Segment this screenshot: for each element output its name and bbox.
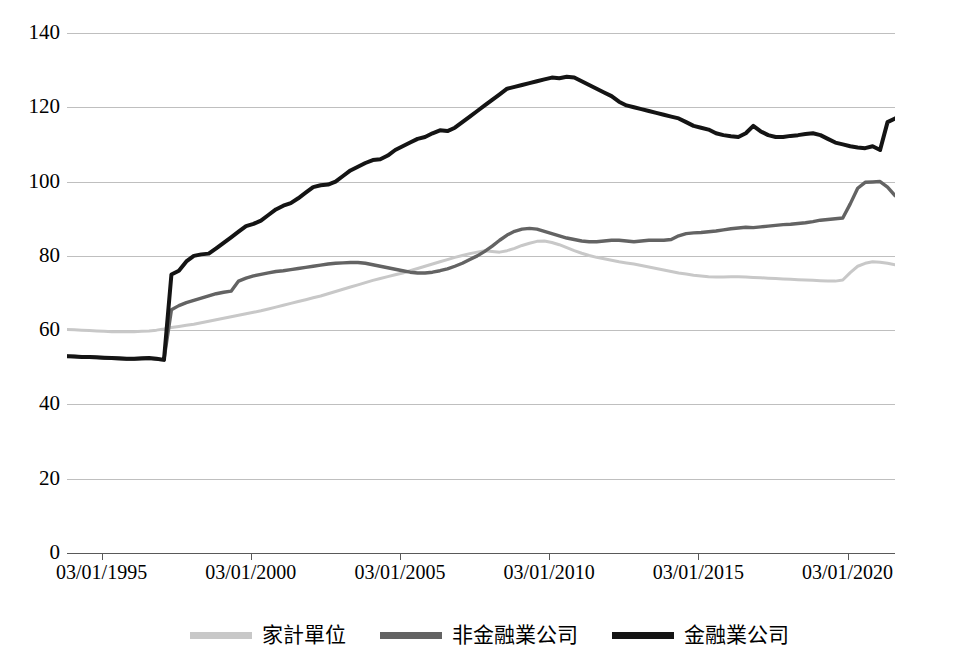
y-tick-label: 20 <box>2 468 60 489</box>
clipped-header-text <box>700 0 930 2</box>
legend-swatch-icon <box>190 632 252 639</box>
y-tick-label: 120 <box>2 96 60 117</box>
x-tick-label: 03/01/2005 <box>354 560 445 584</box>
series-line <box>67 77 895 360</box>
x-tick-mark <box>400 553 401 560</box>
legend-swatch-icon <box>380 632 442 639</box>
x-tick-mark <box>102 553 103 560</box>
y-tick-label: 80 <box>2 245 60 266</box>
x-tick-mark <box>251 553 252 560</box>
y-tick-label: 100 <box>2 171 60 192</box>
x-axis-labels: 03/01/199503/01/200003/01/200503/01/2010… <box>0 560 979 590</box>
series-lines <box>67 33 895 553</box>
legend-label: 家計單位 <box>262 623 346 647</box>
legend-label: 非金融業公司 <box>452 623 578 647</box>
legend-item[interactable]: 家計單位 <box>190 623 346 647</box>
x-tick-label: 03/01/2010 <box>504 560 595 584</box>
x-tick-label: 03/01/1995 <box>56 560 147 584</box>
y-tick-label: 140 <box>2 22 60 43</box>
legend-item[interactable]: 金融業公司 <box>612 623 789 647</box>
legend-swatch-icon <box>612 632 674 639</box>
legend-label: 金融業公司 <box>684 623 789 647</box>
x-tick-label: 03/01/2020 <box>802 560 893 584</box>
x-tick-mark <box>549 553 550 560</box>
x-tick-mark <box>848 553 849 560</box>
y-axis-labels: 020406080100120140 <box>0 33 60 553</box>
x-tick-mark <box>698 553 699 560</box>
y-tick-label: 60 <box>2 319 60 340</box>
chart-container: 020406080100120140 03/01/199503/01/20000… <box>0 0 979 665</box>
y-tick-label: 40 <box>2 393 60 414</box>
x-tick-label: 03/01/2015 <box>653 560 744 584</box>
chart-legend: 家計單位非金融業公司金融業公司 <box>0 615 979 655</box>
series-line <box>67 182 895 360</box>
x-tick-label: 03/01/2000 <box>205 560 296 584</box>
plot-area <box>67 33 895 553</box>
legend-item[interactable]: 非金融業公司 <box>380 623 578 647</box>
